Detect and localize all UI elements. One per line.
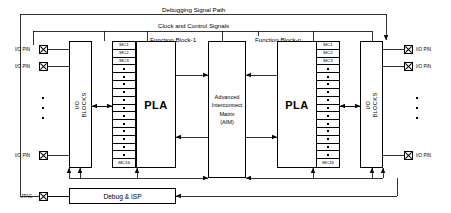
macrocell-row[interactable]: [113, 112, 135, 120]
debugging-signal-path-label: Debugging Signal Path: [160, 6, 227, 13]
macrocell-dot-icon: [327, 68, 329, 70]
advanced-interconnect-matrix[interactable]: Advanced Interconnect Matrix (AIM): [208, 41, 246, 178]
macrocell-row[interactable]: [317, 136, 339, 144]
jtag-pin-label: JTAG: [21, 194, 32, 199]
jtag-pin-icon[interactable]: [39, 192, 48, 201]
macrocell-row[interactable]: MC3: [317, 58, 339, 66]
macrocell-row[interactable]: [113, 97, 135, 105]
io-pin-label-left-1: I/O PIN: [15, 47, 30, 52]
aim-line-3: Matrix: [209, 110, 245, 119]
io-blocks-left-line2: BLOCKS: [81, 92, 88, 117]
io-pins-left-ellipsis: [41, 97, 45, 119]
macrocell-dot-icon: [327, 76, 329, 78]
io-pin-icon-right-3[interactable]: [404, 151, 413, 160]
io-pin-label-left-3: I/O PIN: [15, 153, 30, 158]
macrocell-row[interactable]: [317, 105, 339, 113]
pla-block-1[interactable]: PLA: [136, 41, 176, 168]
macrocell-dot-icon: [123, 107, 125, 109]
macrocell-dot-icon: [327, 99, 329, 101]
io-pins-right-ellipsis: [415, 97, 419, 119]
macrocell-row[interactable]: [113, 81, 135, 89]
aim-line-4: (AIM): [209, 118, 245, 127]
io-blocks-left-label: I/O BLOCKS: [74, 92, 88, 117]
macrocell-row[interactable]: [317, 81, 339, 89]
io-blocks-right-line2: BLOCKS: [372, 92, 379, 117]
macrocell-row[interactable]: [317, 120, 339, 128]
io-pin-label-right-2: I/O PIN: [416, 64, 431, 69]
io-pin-label-left-2: I/O PIN: [15, 64, 30, 69]
macrocell-row[interactable]: [113, 120, 135, 128]
macrocell-dot-icon: [123, 91, 125, 93]
macrocell-dot-icon: [327, 130, 329, 132]
macrocell-dot-icon: [123, 83, 125, 85]
macrocell-dot-icon: [123, 154, 125, 156]
pla-block-1-label: PLA: [137, 99, 175, 111]
macrocell-row[interactable]: [317, 112, 339, 120]
macrocell-dot-icon: [123, 99, 125, 101]
macrocell-row[interactable]: [113, 128, 135, 136]
macrocell-row[interactable]: [113, 136, 135, 144]
macrocell-dot-icon: [327, 115, 329, 117]
macrocell-row[interactable]: MC2: [113, 50, 135, 58]
macrocell-row[interactable]: MC1: [317, 42, 339, 50]
macrocell-column-right[interactable]: MC1MC2MC3MC16: [316, 41, 340, 168]
macrocell-row[interactable]: [113, 151, 135, 159]
macrocell-row[interactable]: [113, 105, 135, 113]
io-pin-label-right-1: I/O PIN: [416, 47, 431, 52]
macrocell-row[interactable]: [317, 151, 339, 159]
pla-block-n-label: PLA: [278, 99, 316, 111]
macrocell-row[interactable]: [317, 97, 339, 105]
aim-label: Advanced Interconnect Matrix (AIM): [209, 92, 245, 127]
io-pin-icon-left-1[interactable]: [39, 45, 48, 54]
macrocell-row[interactable]: [113, 89, 135, 97]
macrocell-dot-icon: [327, 154, 329, 156]
macrocell-row[interactable]: MC2: [317, 50, 339, 58]
macrocell-row[interactable]: [317, 128, 339, 136]
io-blocks-left-line1: I/O: [74, 92, 81, 117]
debug-and-isp-block[interactable]: Debug & ISP: [69, 188, 176, 204]
macrocell-dot-icon: [327, 146, 329, 148]
macrocell-row[interactable]: [317, 65, 339, 73]
macrocell-dot-icon: [327, 91, 329, 93]
io-pin-icon-left-2[interactable]: [39, 62, 48, 71]
macrocell-dot-icon: [123, 68, 125, 70]
macrocell-dot-icon: [327, 138, 329, 140]
io-blocks-right[interactable]: I/O BLOCKS: [360, 41, 383, 168]
macrocell-row[interactable]: [113, 65, 135, 73]
macrocell-row[interactable]: [113, 144, 135, 152]
macrocell-dot-icon: [327, 107, 329, 109]
io-pin-label-right-3: I/O PIN: [416, 153, 431, 158]
macrocell-row[interactable]: MC16: [317, 159, 339, 167]
macrocell-dot-icon: [123, 123, 125, 125]
macrocell-row[interactable]: [317, 89, 339, 97]
debug-and-isp-label: Debug & ISP: [70, 193, 175, 200]
macrocell-row[interactable]: MC16: [113, 159, 135, 167]
macrocell-row[interactable]: MC1: [113, 42, 135, 50]
io-pin-icon-right-2[interactable]: [404, 62, 413, 71]
macrocell-dot-icon: [327, 123, 329, 125]
io-pin-icon-left-3[interactable]: [39, 151, 48, 160]
macrocell-dot-icon: [123, 76, 125, 78]
macrocell-dot-icon: [123, 138, 125, 140]
macrocell-row[interactable]: [317, 73, 339, 81]
macrocell-dot-icon: [123, 146, 125, 148]
macrocell-row[interactable]: [113, 73, 135, 81]
io-blocks-right-line1: I/O: [365, 92, 372, 117]
io-pin-icon-right-1[interactable]: [404, 45, 413, 54]
aim-line-2: Interconnect: [209, 101, 245, 110]
macrocell-dot-icon: [327, 83, 329, 85]
macrocell-row[interactable]: MC3: [113, 58, 135, 66]
io-blocks-right-label: I/O BLOCKS: [365, 92, 379, 117]
clock-and-control-signals-label: Clock and Control Signals: [156, 22, 231, 29]
io-blocks-left[interactable]: I/O BLOCKS: [69, 41, 92, 168]
cpld-architecture-diagram: Debugging Signal Path Clock and Control …: [0, 0, 451, 213]
macrocell-row[interactable]: [317, 144, 339, 152]
macrocell-dot-icon: [123, 130, 125, 132]
aim-line-1: Advanced: [209, 92, 245, 101]
macrocell-dot-icon: [123, 115, 125, 117]
macrocell-column-left[interactable]: MC1MC2MC3MC16: [112, 41, 136, 168]
pla-block-n[interactable]: PLA: [277, 41, 317, 168]
